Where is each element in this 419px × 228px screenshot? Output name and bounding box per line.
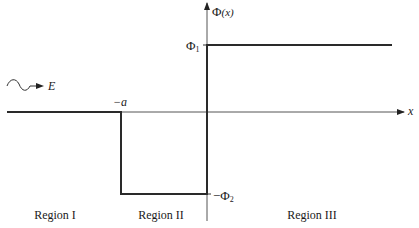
phi2-label: −Φ2: [213, 189, 234, 202]
y-axis-label: Φ(x): [212, 5, 234, 18]
y-axis-arg: (x): [222, 6, 234, 18]
region-1-label: Region I: [34, 209, 76, 221]
region-2-label: Region II: [138, 209, 184, 221]
phi-symbol: Φ: [212, 4, 222, 19]
incident-wave-icon: [7, 80, 44, 91]
phi2-symbol: −Φ: [213, 188, 230, 203]
energy-label: E: [48, 80, 55, 92]
minus-a-label: −a: [113, 96, 127, 108]
phi1-symbol: Φ: [186, 38, 196, 53]
potential-profile: [7, 45, 392, 194]
phi2-subscript: 2: [230, 195, 234, 204]
potential-diagram: [0, 0, 419, 228]
phi1-subscript: 1: [196, 45, 200, 54]
phi1-label: Φ1: [186, 39, 200, 52]
region-3-label: Region III: [287, 209, 337, 221]
x-axis-label: x: [408, 105, 413, 117]
